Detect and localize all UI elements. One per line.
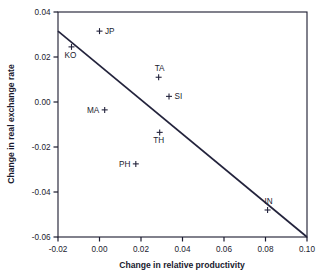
data-point: SI — [166, 92, 182, 101]
x-axis-title: Change in relative productivity — [119, 260, 245, 270]
y-tick-label: -0.06 — [32, 233, 51, 242]
y-tick-label: -0.04 — [32, 188, 51, 197]
x-tick-label: 0.02 — [133, 245, 149, 254]
data-point-label: PH — [119, 160, 130, 169]
chart-canvas: -0.020.000.020.040.060.080.10 0.040.020.… — [0, 0, 322, 275]
data-point-label: SI — [175, 92, 183, 101]
data-point: JP — [97, 27, 116, 36]
x-tick-label: -0.02 — [49, 245, 68, 254]
regression-trendline — [58, 31, 307, 237]
data-point-label: JP — [105, 27, 115, 36]
x-tick-label: 0.06 — [216, 245, 232, 254]
data-point: MA — [87, 106, 108, 115]
scatter-plot-figure: -0.020.000.020.040.060.080.10 0.040.020.… — [0, 0, 322, 275]
data-point-label: TH — [153, 136, 164, 145]
data-point-label: IN — [264, 197, 272, 206]
y-tick-label: 0.00 — [35, 98, 51, 107]
trendline-segment — [58, 31, 307, 237]
y-tick-label: -0.02 — [32, 143, 51, 152]
data-point-label: TA — [155, 64, 165, 73]
y-axis-ticks — [54, 12, 59, 237]
data-point: IN — [264, 197, 272, 213]
x-tick-label: 0.08 — [258, 245, 274, 254]
y-axis-tick-labels: 0.040.020.00-0.02-0.04-0.06 — [32, 8, 51, 242]
data-point: TA — [155, 64, 165, 80]
x-tick-label: 0.04 — [175, 245, 191, 254]
data-point: PH — [119, 160, 139, 169]
y-tick-label: 0.04 — [35, 8, 51, 17]
data-point: TH — [153, 129, 164, 145]
data-point-label: MA — [87, 106, 100, 115]
y-axis-title: Change in real exchange rate — [6, 64, 16, 184]
y-tick-label: 0.02 — [35, 53, 51, 62]
data-point: KO — [65, 44, 77, 60]
data-point-label: KO — [65, 51, 77, 60]
x-tick-label: 0.00 — [92, 245, 108, 254]
x-axis-tick-labels: -0.020.000.020.040.060.080.10 — [49, 245, 316, 254]
data-points-group: JPKOTASIMATHPHIN — [65, 27, 273, 213]
x-tick-label: 0.10 — [299, 245, 315, 254]
x-axis-ticks — [58, 237, 307, 242]
